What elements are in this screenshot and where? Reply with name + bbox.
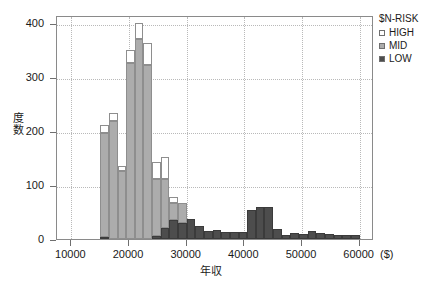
bar-segment-low bbox=[230, 232, 239, 239]
histogram-bar bbox=[256, 207, 265, 239]
y-axis-title: 度 数 bbox=[12, 112, 24, 136]
bar-segment-low bbox=[308, 231, 317, 239]
bar-segment-low bbox=[316, 233, 325, 239]
bar-segment-low bbox=[178, 223, 187, 239]
gridline-vertical-10000 bbox=[71, 17, 72, 239]
x-tick-mark-40000 bbox=[243, 240, 244, 246]
x-tick-mark-30000 bbox=[186, 240, 187, 246]
y-tick-label-0: 0 bbox=[38, 234, 44, 245]
histogram-bar bbox=[152, 162, 161, 239]
x-tick-mark-10000 bbox=[70, 240, 71, 246]
histogram-bar bbox=[230, 232, 239, 239]
gridline-vertical-60000 bbox=[360, 17, 361, 239]
x-tick-label-40000: 40000 bbox=[213, 248, 273, 260]
bar-segment-high bbox=[118, 166, 127, 171]
bar-segment-low bbox=[256, 207, 265, 239]
histogram-bar bbox=[299, 234, 308, 239]
histogram-bar bbox=[213, 230, 222, 239]
legend-swatch-icon-mid bbox=[379, 43, 385, 49]
y-axis-title-char-1: 度 bbox=[12, 112, 24, 124]
x-tick-label-30000: 30000 bbox=[156, 248, 216, 260]
histogram-bar bbox=[195, 226, 204, 239]
histogram-bar bbox=[169, 197, 178, 239]
plot-inner bbox=[57, 17, 372, 239]
bar-segment-high bbox=[169, 197, 178, 203]
x-tick-mark-50000 bbox=[301, 240, 302, 246]
bar-segment-low bbox=[213, 230, 222, 239]
bar-segment-mid bbox=[126, 63, 135, 240]
bar-segment-low bbox=[290, 233, 299, 239]
y-tick-mark-300 bbox=[50, 78, 56, 79]
histogram-bar bbox=[100, 125, 109, 239]
y-tick-mark-0 bbox=[50, 240, 56, 241]
bar-segment-low bbox=[161, 228, 170, 239]
gridline-horizontal-400 bbox=[57, 25, 372, 26]
y-tick-label-400: 400 bbox=[26, 18, 44, 29]
histogram-bar bbox=[221, 232, 230, 239]
bar-segment-low bbox=[247, 210, 256, 239]
bar-segment-low bbox=[282, 235, 291, 239]
bar-segment-low bbox=[334, 235, 343, 239]
bar-segment-low bbox=[169, 220, 178, 239]
bar-segment-low bbox=[239, 232, 248, 239]
bar-segment-low bbox=[325, 234, 334, 239]
bar-segment-mid bbox=[118, 171, 127, 239]
histogram-bar bbox=[342, 235, 351, 239]
gridline-vertical-40000 bbox=[244, 17, 245, 239]
x-axis-unit: ($) bbox=[380, 248, 393, 260]
histogram-bar bbox=[334, 235, 343, 239]
bar-segment-mid bbox=[135, 39, 144, 239]
bar-segment-high bbox=[100, 125, 109, 133]
bar-segment-low bbox=[264, 207, 273, 239]
plot-area bbox=[56, 16, 373, 240]
legend-item-mid: MID bbox=[379, 39, 418, 52]
legend-title: $N-RISK bbox=[379, 12, 418, 25]
x-tick-label-50000: 50000 bbox=[271, 248, 331, 260]
y-tick-mark-200 bbox=[50, 132, 56, 133]
bar-segment-mid bbox=[143, 65, 152, 239]
x-tick-mark-20000 bbox=[128, 240, 129, 246]
histogram-bar bbox=[264, 207, 273, 239]
bar-segment-high bbox=[161, 157, 170, 179]
bar-segment-low bbox=[195, 226, 204, 239]
legend-item-high: HIGH bbox=[379, 26, 418, 39]
histogram-bar bbox=[282, 235, 291, 239]
histogram-bar bbox=[178, 203, 187, 239]
y-axis-title-char-2: 数 bbox=[12, 124, 24, 136]
bar-segment-mid bbox=[169, 203, 178, 220]
histogram-bar bbox=[143, 43, 152, 239]
legend-swatch-icon-low bbox=[379, 56, 385, 62]
bar-segment-low bbox=[204, 231, 213, 239]
x-tick-label-20000: 20000 bbox=[98, 248, 158, 260]
bar-segment-low bbox=[221, 232, 230, 239]
bar-segment-mid bbox=[178, 203, 187, 224]
x-tick-label-10000: 10000 bbox=[40, 248, 100, 260]
y-tick-label-300: 300 bbox=[26, 72, 44, 83]
histogram-bar bbox=[187, 219, 196, 240]
y-tick-label-200: 200 bbox=[26, 126, 44, 137]
histogram-bar bbox=[273, 229, 282, 239]
histogram-bar bbox=[239, 232, 248, 239]
histogram-bar bbox=[204, 231, 213, 239]
histogram-bar bbox=[316, 233, 325, 239]
legend-label-mid: MID bbox=[389, 39, 407, 52]
bar-segment-high bbox=[109, 113, 118, 121]
bar-segment-mid bbox=[161, 179, 170, 228]
x-tick-mark-60000 bbox=[359, 240, 360, 246]
bar-segment-low bbox=[342, 235, 351, 239]
y-tick-label-100: 100 bbox=[26, 180, 44, 191]
bar-segment-high bbox=[135, 23, 144, 39]
histogram-bar bbox=[135, 23, 144, 239]
histogram-bar bbox=[126, 50, 135, 239]
gridline-horizontal-300 bbox=[57, 79, 372, 80]
gridline-vertical-50000 bbox=[302, 17, 303, 239]
bar-segment-mid bbox=[100, 133, 109, 238]
histogram-bar bbox=[290, 233, 299, 239]
legend-label-high: HIGH bbox=[389, 26, 414, 39]
histogram-bar bbox=[247, 210, 256, 239]
histogram-bar bbox=[325, 234, 334, 239]
bar-segment-low bbox=[152, 236, 161, 239]
bar-segment-high bbox=[126, 50, 135, 62]
histogram-bar bbox=[308, 231, 317, 239]
histogram-figure: 度 数 0100200300400 1000020000300004000050… bbox=[0, 0, 422, 284]
